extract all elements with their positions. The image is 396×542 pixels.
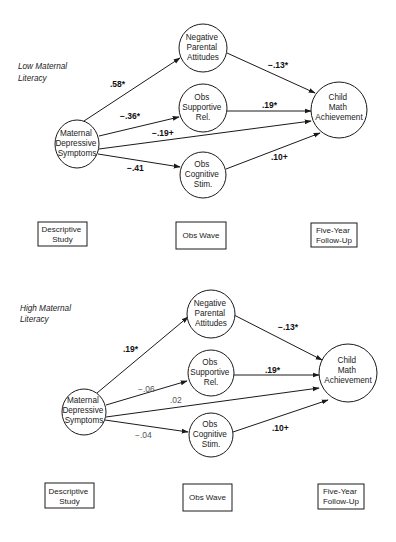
svg-text:Obs Wave: Obs Wave xyxy=(189,493,227,502)
coef-supportive-child: .19* xyxy=(262,100,278,110)
coef-maternal-supportive: −.06 xyxy=(138,384,155,394)
node-child-math-achievement: Child Math Achievement xyxy=(311,82,367,138)
coef-negative-child: −.13* xyxy=(278,322,299,332)
panel-title: Low Maternal Literacy xyxy=(18,62,69,83)
coef-maternal-negative: .58* xyxy=(110,79,126,89)
svg-text:Five-Year Follow-Up: Five-Year Follow-Up xyxy=(323,487,360,506)
panel-high-literacy: High Maternal Literacy .19* −.06 .02 −.0… xyxy=(20,290,377,511)
coef-maternal-supportive: −.36* xyxy=(120,111,141,121)
coef-maternal-child: .02 xyxy=(170,395,182,405)
panel-low-literacy: Low Maternal Literacy .58* −.36* −.19+ −… xyxy=(18,24,367,249)
node-obs-cognitive-stim: Obs Cognitive Stim. xyxy=(180,152,226,198)
node-negative-parental-attitudes: Negative Parental Attitudes xyxy=(187,290,235,338)
coef-negative-child: −.13* xyxy=(268,60,289,70)
node-child-math-achievement: Child Math Achievement xyxy=(319,344,377,402)
svg-text:Maternal Depressive: Maternal Depressive Symptoms xyxy=(62,396,105,425)
wave-obs-wave: Obs Wave xyxy=(183,484,232,511)
svg-text:Five-Year Follow-Up: Five-Year Follow-Up xyxy=(316,226,353,245)
panel-title: High Maternal Literacy xyxy=(20,304,73,324)
coef-maternal-child: −.19+ xyxy=(152,128,174,138)
svg-text:Maternal Depressive: Maternal Depressive Symptoms xyxy=(55,129,98,158)
edge-maternal-to-negative xyxy=(97,317,188,393)
coef-maternal-cognitive: −.04 xyxy=(135,430,152,440)
edge-negative-to-child xyxy=(227,53,315,93)
node-negative-parental-attitudes: Negative Parental Attitudes xyxy=(179,24,227,72)
coef-cognitive-child: .10+ xyxy=(271,152,288,162)
svg-text:Negative Parental: Negative Parental Attitudes xyxy=(186,33,221,62)
node-obs-supportive-rel: Obs Supportive Rel. xyxy=(188,350,234,396)
coef-cognitive-child: .10+ xyxy=(272,423,289,433)
path-diagram: Low Maternal Literacy .58* −.36* −.19+ −… xyxy=(0,0,396,542)
wave-descriptive-study: Descriptive Study xyxy=(45,483,94,508)
coef-maternal-negative: .19* xyxy=(123,344,139,354)
node-maternal-depressive-symptoms: Maternal Depressive Symptoms xyxy=(62,389,106,435)
wave-obs-wave: Obs Wave xyxy=(176,222,226,249)
coef-maternal-cognitive: −.41 xyxy=(127,163,144,173)
wave-five-year-follow-up: Five-Year Follow-Up xyxy=(311,223,357,247)
svg-text:Negative Parental: Negative Parental Attitudes xyxy=(194,299,229,328)
node-obs-supportive-rel: Obs Supportive Rel. xyxy=(179,84,227,132)
wave-descriptive-study: Descriptive Study xyxy=(38,222,87,246)
node-obs-cognitive-stim: Obs Cognitive Stim. xyxy=(189,413,233,457)
coef-supportive-child: .19* xyxy=(265,365,281,375)
wave-five-year-follow-up: Five-Year Follow-Up xyxy=(318,484,364,509)
node-maternal-depressive-symptoms: Maternal Depressive Symptoms xyxy=(55,120,99,168)
edge-cognitive-to-child xyxy=(226,133,320,169)
svg-text:Obs Wave: Obs Wave xyxy=(182,231,220,240)
